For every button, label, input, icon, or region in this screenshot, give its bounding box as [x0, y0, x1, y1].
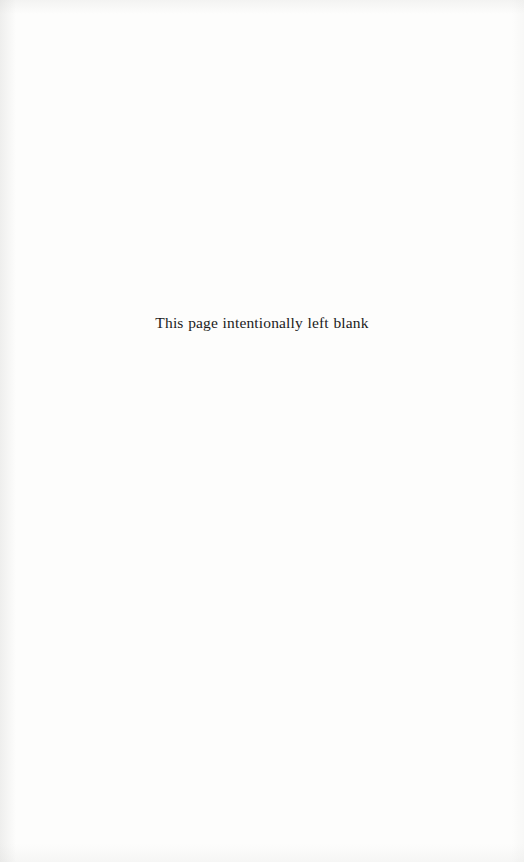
scanned-page: This page intentionally left blank: [0, 0, 524, 862]
scan-edge-shading-top: [0, 0, 524, 14]
intentionally-blank-notice: This page intentionally left blank: [0, 314, 524, 332]
scan-edge-shading-right: [512, 0, 524, 862]
scan-edge-shading-bottom: [0, 844, 524, 862]
scan-edge-shading-left: [0, 0, 16, 862]
